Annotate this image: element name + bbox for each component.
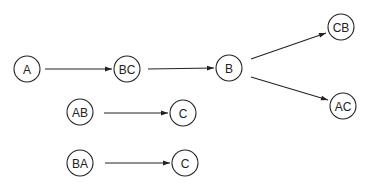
edge-arrow-b-to-ac	[251, 77, 328, 100]
node-label: A	[23, 63, 31, 77]
edge-arrow-b-to-cb	[251, 33, 326, 59]
edge-arrow-bc-to-b	[148, 68, 214, 69]
node-c1: C	[170, 100, 196, 126]
nodes-group: ABCBCBACABCBAC	[14, 14, 356, 176]
node-label: AC	[335, 100, 352, 114]
node-label: BA	[72, 157, 88, 171]
node-label: CB	[333, 21, 350, 35]
node-label: C	[179, 107, 188, 121]
node-ba: BA	[67, 150, 93, 176]
node-a: A	[14, 56, 40, 82]
node-b: B	[216, 55, 242, 81]
node-label: BC	[119, 63, 136, 77]
node-label: AB	[72, 106, 88, 120]
transition-diagram: ABCBCBACABCBAC	[0, 0, 371, 190]
node-ac: AC	[330, 93, 356, 119]
node-label: B	[225, 62, 233, 76]
edges-group	[45, 33, 328, 163]
node-bc: BC	[114, 56, 140, 82]
node-label: C	[181, 157, 190, 171]
node-ab: AB	[67, 99, 93, 125]
node-cb: CB	[328, 14, 354, 40]
node-c2: C	[172, 150, 198, 176]
